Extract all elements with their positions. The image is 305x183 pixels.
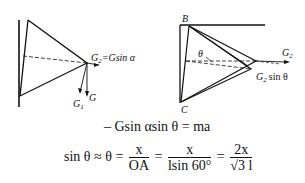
- fraction-x-over-oa: x OA: [129, 142, 149, 173]
- left-figure: G2=Gsin α G1 G: [19, 20, 136, 111]
- eq2-lhs: sin θ ≈ θ =: [64, 149, 123, 164]
- label-g2-right: G2: [282, 47, 293, 60]
- label-b: B: [182, 13, 188, 24]
- label-g2-left: G2=Gsin α: [91, 52, 136, 65]
- right-figure: B C θ G2 G2sin θ: [180, 13, 293, 115]
- label-theta: θ: [198, 48, 203, 59]
- equation-1: – Gsin αsin θ = ma: [104, 119, 210, 135]
- g2-arrow-right: [256, 61, 286, 62]
- label-g2-sin-theta: G2sin θ: [256, 71, 288, 84]
- label-g1: G1: [73, 98, 84, 111]
- label-g: G: [89, 92, 96, 103]
- label-c: C: [181, 104, 188, 115]
- triangle-edge: [189, 26, 248, 66]
- triangle-outline: [20, 20, 87, 96]
- triangle-outline-2: [181, 26, 251, 102]
- g1-arrowhead-icon: [78, 88, 82, 94]
- g2-arrowhead-right-icon: [284, 60, 290, 64]
- g1-arrow: [80, 63, 87, 92]
- equation-2: sin θ ≈ θ = x OA = x lsin 60° = 2x √3 l: [64, 142, 254, 173]
- fraction-x-over-lsin60: x lsin 60°: [168, 142, 211, 173]
- dashed-line: [23, 56, 87, 63]
- fraction-2x-over-sqrt3l: 2x √3 l: [230, 142, 252, 173]
